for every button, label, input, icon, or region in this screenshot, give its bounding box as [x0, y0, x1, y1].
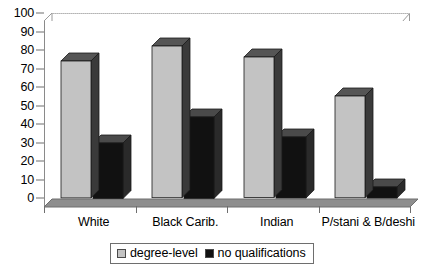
- legend-entry-no-qualifications: no qualifications: [205, 246, 306, 260]
- y-axis-tick: [36, 13, 44, 14]
- x-axis-tick: [136, 206, 137, 213]
- y-axis-tick-label: 50: [20, 99, 34, 113]
- x-axis-tick: [227, 206, 228, 213]
- y-axis-tick: [36, 50, 44, 51]
- x-axis: WhiteBlack Carib.IndianP/stani & B/deshi: [0, 206, 427, 236]
- bar-column: [335, 88, 373, 198]
- y-axis-tick-label: 90: [20, 25, 34, 39]
- y-axis-tick: [36, 198, 44, 199]
- legend-label: no qualifications: [218, 246, 306, 260]
- bar-chart: 1009080706050403020100 WhiteBlack Carib.…: [0, 0, 427, 269]
- bar-column: [152, 38, 190, 198]
- x-axis-category-label: White: [78, 215, 109, 229]
- x-axis-category-label: Indian: [260, 215, 293, 229]
- bar-column: [61, 53, 99, 198]
- y-axis-tick: [36, 105, 44, 106]
- y-axis: 1009080706050403020100: [0, 0, 44, 215]
- y-axis-tick: [36, 31, 44, 32]
- legend-label: degree-level: [130, 246, 198, 260]
- y-axis-tick-label: 40: [20, 117, 34, 131]
- y-axis-tick: [36, 161, 44, 162]
- y-axis-tick: [36, 68, 44, 69]
- x-axis-tick: [410, 206, 411, 213]
- y-axis-tick-label: 10: [20, 173, 34, 187]
- chart-legend: degree-level no qualifications: [110, 243, 314, 264]
- x-axis-category-label: Black Carib.: [152, 215, 218, 229]
- x-axis-category-label: P/stani & B/deshi: [322, 215, 416, 229]
- y-axis-tick-label: 100: [14, 6, 34, 20]
- bar-series-container: [0, 0, 427, 215]
- y-axis-tick: [36, 142, 44, 143]
- x-axis-tick: [44, 206, 45, 213]
- y-axis-tick-label: 70: [20, 62, 34, 76]
- legend-entry-degree-level: degree-level: [117, 246, 198, 260]
- y-axis-tick: [36, 179, 44, 180]
- y-axis-tick: [36, 124, 44, 125]
- legend-swatch-icon: [117, 249, 126, 258]
- bar-column: [244, 49, 282, 198]
- y-axis-tick-label: 80: [20, 43, 34, 57]
- x-axis-tick: [319, 206, 320, 213]
- y-axis-tick-label: 60: [20, 80, 34, 94]
- y-axis-tick-label: 20: [20, 154, 34, 168]
- legend-swatch-icon: [205, 249, 214, 258]
- y-axis-tick-label: 30: [20, 136, 34, 150]
- y-axis-tick: [36, 87, 44, 88]
- y-axis-tick-label: 0: [27, 191, 34, 205]
